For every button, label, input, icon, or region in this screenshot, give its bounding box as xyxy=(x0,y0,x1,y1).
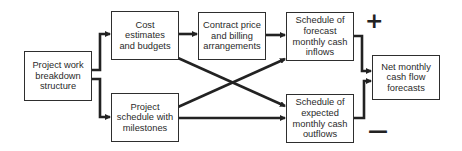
node-cost-estimates: Cost estimates and budgets xyxy=(111,11,179,60)
node-cost-label: Cost estimates and budgets xyxy=(119,20,170,52)
edge-inflows-net xyxy=(353,36,371,71)
node-contract-price: Contract price and billing arrangements xyxy=(198,12,266,60)
edge-wbs-cost xyxy=(91,34,110,70)
node-schedule-label: Project schedule with milestones xyxy=(117,102,173,134)
node-cash-inflows: Schedule of forecast monthly cash inflow… xyxy=(286,12,354,61)
node-outflows-label: Schedule of expected monthly cash outflo… xyxy=(293,97,348,139)
node-project-schedule: Project schedule with milestones xyxy=(111,93,179,142)
edge-wbs-schedule xyxy=(91,79,110,117)
node-cash-outflows: Schedule of expected monthly cash outflo… xyxy=(286,94,354,143)
node-wbs-label: Project work breakdown structure xyxy=(32,60,83,92)
edge-outflows-net xyxy=(353,81,371,118)
node-contract-label: Contract price and billing arrangements xyxy=(203,20,261,52)
diagram-canvas: Project work breakdown structure Cost es… xyxy=(0,0,462,151)
node-inflows-label: Schedule of forecast monthly cash inflow… xyxy=(293,15,348,57)
node-net-label: Net monthly cash flow forecasts xyxy=(381,62,431,94)
node-net-cash-flow: Net monthly cash flow forecasts xyxy=(372,55,440,100)
node-wbs: Project work breakdown structure xyxy=(24,51,92,101)
plus-sign: + xyxy=(365,10,383,32)
minus-sign: — xyxy=(368,120,388,140)
